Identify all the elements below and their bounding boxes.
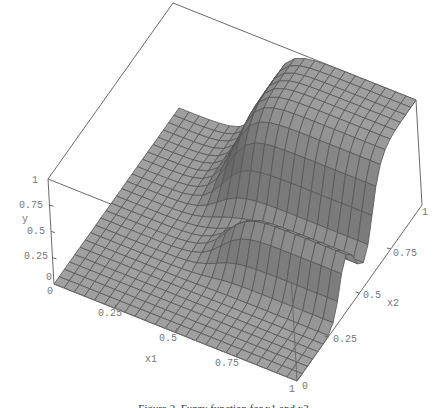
x2-tick-0: 0	[302, 381, 308, 392]
x1-tick-0: 0	[47, 286, 53, 297]
x1-tick-1: 1	[289, 384, 295, 395]
x2-tick-025: 0.25	[333, 334, 357, 345]
surface-plot: 1 0.75 y 0.5 0.25 0 0 0.25 0.5 x1 0.75 1…	[0, 0, 447, 408]
y-tick-1: 1	[32, 175, 38, 186]
x1-tick-075: 0.75	[215, 358, 239, 369]
x1-tick-025: 0.25	[98, 308, 122, 319]
x1-axis-title: x1	[145, 354, 157, 365]
x1-tick-05: 0.5	[159, 333, 177, 344]
y-tick-05: 0.5	[27, 226, 45, 237]
y-tick-025: 0.25	[24, 251, 48, 262]
x2-tick-1: 1	[422, 207, 428, 218]
y-tick-0: 0	[46, 272, 52, 283]
figure-caption: Figure 2. Fuzzy function for x1 and x2	[0, 399, 447, 408]
y-tick-075: 0.75	[19, 200, 43, 211]
x2-tick-075: 0.75	[393, 248, 417, 259]
surface-mesh	[54, 59, 416, 382]
x2-tick-05: 0.5	[363, 290, 381, 301]
y-axis-title: y	[22, 214, 28, 225]
x2-axis-title: x2	[387, 298, 399, 309]
